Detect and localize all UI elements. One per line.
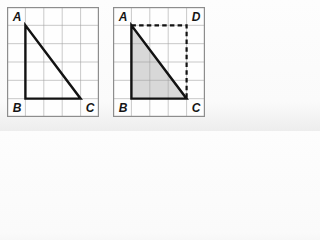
vertex-label-b: B — [114, 99, 132, 117]
vertex-label-a: A — [114, 8, 132, 26]
vertex-label-c: C — [187, 99, 205, 117]
vertex-label-a: A — [8, 8, 26, 26]
vertex-label-c: C — [81, 99, 99, 117]
right-grid-panel: A D B C — [113, 7, 205, 117]
left-grid-panel: A B C — [7, 7, 99, 117]
vertex-label-d: D — [187, 8, 205, 26]
vertex-label-b: B — [8, 99, 26, 117]
figure: A B C A D B C — [0, 0, 210, 131]
